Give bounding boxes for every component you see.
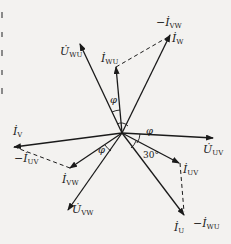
label-i-w: İW <box>172 33 184 46</box>
label-i-w-sub: W <box>176 38 183 46</box>
angle-label-phi-lower-left: φ <box>98 145 105 155</box>
label-u-wu-main: U̇ <box>60 45 69 58</box>
label-neg-i-vw-main: −İ <box>156 16 170 29</box>
label-u-uv: U̇UV <box>203 144 223 157</box>
phasor-u-vw <box>68 133 122 210</box>
label-i-v: İV <box>13 126 22 139</box>
label-u-vw-main: U̇ <box>72 203 81 216</box>
angle-arc-phi-lower-left <box>105 145 111 151</box>
label-i-wu-sub: WU <box>105 58 118 66</box>
label-neg-i-wu: −İWU <box>193 218 220 231</box>
angle-arc-30 <box>131 141 136 148</box>
label-i-u: İU <box>174 222 184 235</box>
phasor-i-u <box>122 133 184 215</box>
label-i-wu: İWU <box>101 53 118 66</box>
angle-label-phi-right: φ <box>146 126 153 136</box>
label-i-vw-sub: VW <box>66 179 78 187</box>
label-i-uv: İUV <box>183 164 198 177</box>
label-neg-i-uv-main: −İ <box>14 152 28 165</box>
label-i-vw: İVW <box>62 174 79 187</box>
phasor-i-w <box>122 35 170 133</box>
label-i-v-sub: V <box>17 131 22 139</box>
label-u-vw: U̇VW <box>72 204 94 217</box>
label-u-vw-sub: VW <box>81 209 93 217</box>
label-i-uv-sub: UV <box>187 169 198 177</box>
label-neg-i-uv: −İUV <box>14 153 39 166</box>
label-neg-i-wu-sub: WU <box>207 223 220 231</box>
angle-arc-phi-top <box>112 110 120 112</box>
angle-label-30: 30° <box>143 151 159 160</box>
label-u-uv-main: U̇ <box>203 143 212 156</box>
dashed-neg-i-vw <box>116 37 168 67</box>
phasor-i-v <box>14 133 122 147</box>
label-u-wu: U̇WU <box>60 46 82 59</box>
label-u-uv-sub: UV <box>212 149 223 157</box>
label-i-u-sub: U <box>178 227 184 235</box>
phasor-u-uv <box>122 133 213 138</box>
angle-label-phi-top: φ <box>110 95 117 105</box>
label-neg-i-vw: −İVW <box>156 17 182 30</box>
scan-edge-marks <box>0 0 4 100</box>
label-neg-i-wu-main: −İ <box>193 217 207 230</box>
label-neg-i-vw-sub: VW <box>170 22 182 30</box>
phasor-diagram <box>0 0 231 244</box>
label-u-wu-sub: WU <box>69 51 82 59</box>
label-neg-i-uv-sub: UV <box>28 158 39 166</box>
